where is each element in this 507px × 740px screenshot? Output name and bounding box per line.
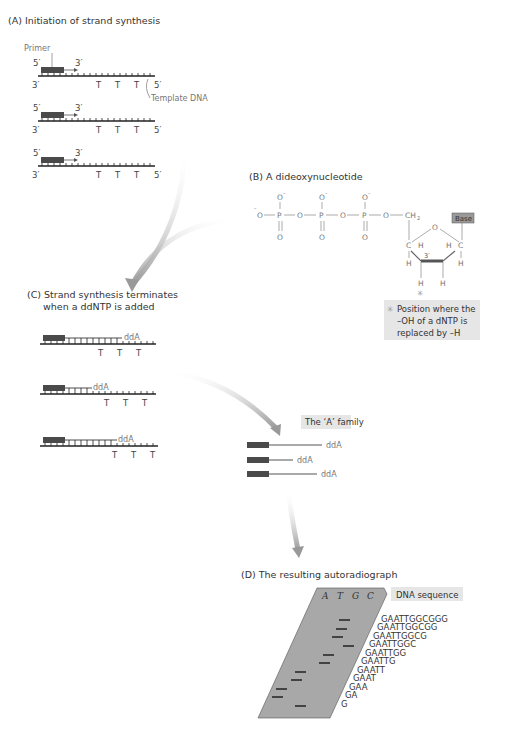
- svg-text:ddA: ddA: [321, 470, 337, 479]
- svg-text:5′: 5′: [33, 148, 40, 158]
- panel-d: (D) The resulting autoradiograph A T G C…: [241, 569, 463, 718]
- svg-text:T: T: [95, 80, 102, 90]
- lane-label-a: A: [321, 591, 329, 601]
- lane-label-t: T: [337, 591, 344, 601]
- fragment-3: ddA: [247, 470, 337, 479]
- svg-text:3′: 3′: [75, 103, 82, 113]
- panel-c-title-2: when a ddNTP is added: [43, 301, 155, 312]
- svg-text:3′: 3′: [75, 58, 82, 68]
- svg-text:–OH of a dNTP is: –OH of a dNTP is: [397, 316, 468, 326]
- svg-text:–: –: [368, 190, 371, 196]
- dna-strand-1: 5′ 3′ 3′ T T T 5′ Template DNA: [32, 58, 208, 103]
- svg-text:T: T: [111, 450, 118, 460]
- svg-text:P: P: [362, 211, 367, 220]
- a-family-title: The ‘A’ family: [304, 417, 364, 427]
- svg-text:5′: 5′: [33, 103, 40, 113]
- panel-c: (C) Strand synthesis terminates when a d…: [27, 289, 178, 460]
- svg-text:O: O: [297, 211, 303, 220]
- sanger-sequencing-diagram: (A) Initiation of strand synthesis Prime…: [0, 0, 507, 740]
- svg-text:H: H: [440, 279, 446, 288]
- svg-text:T: T: [133, 170, 140, 180]
- lane-label-g: G: [352, 591, 359, 601]
- svg-text:ddA: ddA: [124, 333, 140, 342]
- svg-text:C: C: [406, 241, 411, 250]
- svg-text:H: H: [458, 259, 464, 268]
- panel-d-title: (D) The resulting autoradiograph: [241, 569, 397, 580]
- svg-text:P: P: [319, 211, 324, 220]
- svg-text:T: T: [114, 170, 121, 180]
- panel-b-title: (B) A dideoxynucleotide: [249, 171, 363, 182]
- fragment-2: ddA: [247, 456, 313, 465]
- asterisk-icon: ✳: [387, 305, 394, 314]
- svg-text:3′: 3′: [32, 80, 39, 90]
- svg-text:O: O: [383, 211, 389, 220]
- svg-text:O: O: [432, 223, 438, 232]
- svg-text:T: T: [133, 125, 140, 135]
- svg-text:C: C: [458, 241, 463, 250]
- svg-text:T: T: [149, 450, 156, 460]
- svg-text:H: H: [406, 259, 412, 268]
- dideoxynucleotide-structure: O O O – – – – O P O P O P O: [254, 190, 474, 298]
- svg-text:ddA: ddA: [297, 456, 313, 465]
- terminated-strand-3: ddA T T T: [40, 435, 158, 460]
- dna-strand-2: 5′ 3′ 3′ T T T 5′: [32, 103, 161, 135]
- flow-arrow-to-d: [288, 490, 304, 558]
- lane-label-c: C: [367, 591, 374, 601]
- svg-text:O: O: [340, 211, 346, 220]
- panel-a: (A) Initiation of strand synthesis Prime…: [8, 15, 208, 180]
- svg-text:T: T: [122, 398, 129, 408]
- svg-text:T: T: [114, 125, 121, 135]
- svg-text:T: T: [130, 450, 137, 460]
- svg-text:T: T: [97, 348, 104, 358]
- svg-text:O: O: [319, 233, 325, 242]
- svg-text:H: H: [418, 279, 424, 288]
- svg-text:O: O: [362, 233, 368, 242]
- svg-text:T: T: [141, 398, 148, 408]
- svg-text:T: T: [95, 170, 102, 180]
- asterisk-icon: ✳: [417, 289, 424, 298]
- flow-arrow-to-family: [168, 372, 281, 436]
- dna-sequence-label: DNA sequence: [396, 590, 458, 600]
- arrowhead-icon: [292, 546, 304, 558]
- svg-text:–: –: [283, 190, 286, 196]
- svg-text:5′: 5′: [154, 80, 161, 90]
- panel-b: (B) A dideoxynucleotide O O O – – – – O …: [249, 171, 480, 340]
- svg-text:T: T: [114, 80, 121, 90]
- svg-text:replaced by –H: replaced by –H: [397, 328, 460, 338]
- panel-a-title: (A) Initiation of strand synthesis: [8, 15, 160, 26]
- svg-text:T: T: [133, 80, 140, 90]
- template-dna-label: Template DNA: [150, 94, 208, 103]
- svg-text:G: G: [341, 699, 348, 709]
- svg-text:P: P: [277, 211, 282, 220]
- fragment-1: ddA: [247, 441, 342, 450]
- svg-text:ddA: ddA: [326, 441, 342, 450]
- panel-c-title-1: (C) Strand synthesis terminates: [27, 289, 178, 300]
- svg-text:3′: 3′: [32, 125, 39, 135]
- svg-text:T: T: [103, 398, 110, 408]
- flow-arrow-to-c: [125, 150, 238, 292]
- svg-text:ddA: ddA: [93, 383, 109, 392]
- svg-text:Position where the: Position where the: [397, 304, 476, 314]
- svg-text:3′: 3′: [75, 148, 82, 158]
- svg-text:T: T: [116, 348, 123, 358]
- primer-block: [41, 67, 64, 73]
- position-note: ✳ Position where the –OH of a dNTP is re…: [384, 300, 480, 340]
- svg-text:H: H: [418, 241, 424, 250]
- svg-text:3′: 3′: [32, 170, 39, 180]
- svg-text:T: T: [95, 125, 102, 135]
- svg-text:H: H: [446, 241, 452, 250]
- svg-text:5′: 5′: [154, 170, 161, 180]
- terminated-strand-1: ddA T T T: [40, 333, 156, 358]
- svg-text:O: O: [277, 233, 283, 242]
- svg-text:2: 2: [417, 215, 420, 221]
- terminated-strand-2: ddA T T T: [40, 383, 156, 408]
- svg-text:3′: 3′: [424, 252, 430, 260]
- svg-text:5′: 5′: [33, 58, 40, 68]
- dna-strand-3: 5′ 3′ 3′ T T T 5′: [32, 148, 161, 180]
- svg-text:T: T: [135, 348, 142, 358]
- svg-text:ddA: ddA: [118, 435, 134, 444]
- svg-text:O: O: [257, 211, 263, 220]
- a-family: The ‘A’ family ddA ddA ddA: [247, 415, 364, 479]
- svg-text:5′: 5′: [154, 125, 161, 135]
- svg-text:Base: Base: [455, 215, 472, 223]
